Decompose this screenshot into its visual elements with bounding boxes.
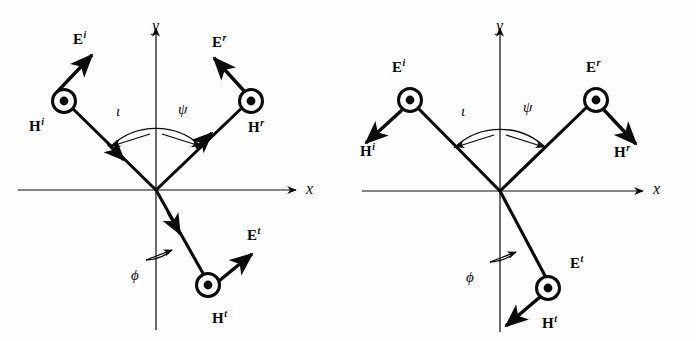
angle-label-transmission: ϕ [466,270,474,285]
label-H-transmitted: Ht [542,314,557,331]
angle-label-reflection: ψ [523,100,532,115]
incident-ray [416,106,500,191]
label-E-reflected: Er [586,58,600,75]
label-H-transmitted-superscript: t [554,313,557,324]
E-reflected-arrow [214,58,246,93]
H-vectors-right [366,110,636,326]
angle-label-incidence: ι [461,104,465,119]
x-axis-label: x [306,181,313,197]
ray-direction-markers-left [108,133,212,234]
label-H-reflected: Hr [614,143,630,160]
label-E-transmitted: Et [570,254,583,271]
label-H-transmitted-superscript: t [224,308,227,319]
y-axis-label: y [152,18,159,34]
angle-label-reflection: ψ [178,102,187,117]
H-transmitted-arrow [506,297,540,326]
label-H-reflected-superscript: r [260,117,264,128]
label-E-incident: Ei [73,30,86,47]
label-H-reflected-superscript: r [626,142,630,153]
label-E-incident: Ei [392,58,405,75]
label-H-incident-superscript: i [41,116,44,127]
H-incident-arrow [366,110,402,143]
rays-group-left [68,104,246,284]
label-H-transmitted-symbol: H [212,310,224,326]
axes-group-left [18,28,296,330]
angle-label-incidence: ι [116,104,120,119]
E-vectors-left [57,55,252,285]
ray-diagram-right [348,0,696,341]
reflected-ray [500,106,588,191]
label-E-transmitted-superscript: t [581,253,584,264]
label-E-reflected-superscript: r [223,32,227,43]
reflected-ray [156,104,246,190]
label-E-transmitted-symbol: E [570,255,580,271]
diagram-panel-parallel: x y ι ψ ϕ Ei Hi Er Hr Et Ht [348,0,696,341]
label-E-reflected-symbol: E [586,59,596,75]
angle-arrow-phi [146,250,172,260]
label-H-reflected-symbol: H [248,119,260,135]
H-reflected-circle-dot [240,90,263,113]
H-transmitted-circle-dot [197,274,220,297]
label-E-transmitted-superscript: t [258,225,261,236]
diagram-panel-perpendicular: x y ι ψ ϕ Ei Hi Er Hr Et Ht [0,0,348,341]
label-E-reflected-superscript: r [597,57,601,68]
E-incident-circle-dot [399,89,422,112]
label-E-incident-superscript: i [403,57,406,68]
angle-label-transmission: ϕ [131,268,139,283]
E-reflected-circle-dot [585,89,608,112]
label-H-incident: Hi [360,142,375,159]
label-E-reflected-symbol: E [212,34,222,50]
label-H-incident-symbol: H [29,118,41,134]
angle-arrow-phi [490,252,516,262]
transmitted-ray [500,191,551,287]
label-H-reflected-symbol: H [614,144,626,160]
label-E-incident-symbol: E [73,31,83,47]
label-H-incident-symbol: H [360,143,372,159]
label-H-reflected: Hr [248,118,264,135]
figure-root: x y ι ψ ϕ Ei Hi Er Hr Et Ht [0,0,696,341]
label-E-incident-symbol: E [392,59,402,75]
y-axis-label: y [496,18,503,34]
label-E-transmitted-symbol: E [247,227,257,243]
x-axis-label: x [653,181,660,197]
transmitted-ray [156,190,209,284]
H-incident-circle-dot [53,90,76,113]
transmitted-direction-arrow [168,212,180,234]
label-H-incident-superscript: i [372,141,375,152]
ray-diagram-left [0,0,348,341]
label-E-reflected: Er [212,33,226,50]
label-H-incident: Hi [29,117,44,134]
label-H-transmitted-symbol: H [542,315,554,331]
E-transmitted-circle-dot [537,277,560,300]
label-E-transmitted: Et [247,226,260,243]
label-H-transmitted: Ht [212,309,227,326]
label-E-incident-superscript: i [84,29,87,40]
H-reflected-arrow [604,110,636,144]
E-incident-arrow [57,55,92,92]
